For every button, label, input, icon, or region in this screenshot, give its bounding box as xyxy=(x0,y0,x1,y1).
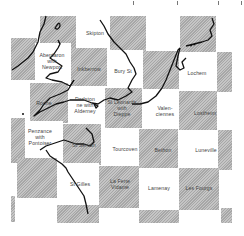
label-luneville: Luneville xyxy=(195,147,216,153)
label-lostheim: Lostheim xyxy=(194,110,216,116)
label-aberdaron: Aberdaron with Newport xyxy=(39,52,64,70)
label-st-servan: St Servan xyxy=(72,142,96,148)
label-roche: Roche xyxy=(36,100,52,106)
label-lochem: Lochem xyxy=(187,70,206,76)
label-bury-st: Bury St xyxy=(114,68,132,74)
label-penzance: Penzance with Pontoiser xyxy=(28,128,52,146)
label-st-leonards: St Leonards with Dieppe xyxy=(107,99,136,117)
coastline-outline xyxy=(0,0,244,236)
twinning-map: Skipton Aberdaron with Newport Inkberrow… xyxy=(0,0,244,236)
label-tourcoven: Tourcoven xyxy=(113,146,138,152)
label-inkberrow: Inkberrow xyxy=(77,66,101,72)
label-les-fourgs: Les Fourgs xyxy=(186,185,213,191)
label-st-gilles: St Gilles xyxy=(70,181,90,187)
location-dot xyxy=(22,113,24,115)
label-skipton: Skipton xyxy=(86,30,104,36)
label-dorlston: Dorlston ne with Alderney xyxy=(74,96,95,114)
label-la-ferte-vidame: La Ferte Vidame xyxy=(110,178,130,190)
label-bethon: Bethon xyxy=(154,147,171,153)
label-valenciennes: Valen- ciennes xyxy=(156,105,175,117)
label-lamenay: Lamenay xyxy=(148,185,170,191)
